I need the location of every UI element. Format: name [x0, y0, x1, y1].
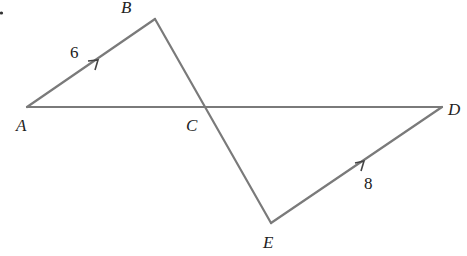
geometry-diagram: B A C D E 6 8 [0, 0, 467, 256]
label-b: B [121, 0, 132, 17]
label-c: C [186, 116, 198, 135]
segment-ed [271, 107, 442, 223]
label-a: A [15, 116, 27, 135]
segment-be [155, 19, 271, 223]
length-ed: 8 [364, 174, 373, 193]
label-d: D [447, 100, 461, 119]
stray-dot [0, 11, 3, 14]
label-e: E [262, 233, 274, 252]
segment-ab [27, 19, 155, 107]
length-ab: 6 [70, 43, 79, 62]
